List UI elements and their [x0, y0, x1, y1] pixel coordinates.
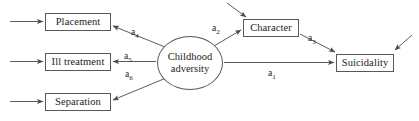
node-ill-treatment-label: Ill treatment — [52, 56, 105, 67]
node-childhood-adversity[interactable]: Childhood adversity — [157, 36, 223, 90]
edge-label-a5: a5 — [124, 52, 132, 62]
edge-label-a1: a1 — [268, 69, 276, 79]
edge-label-a3-sub: 3 — [312, 38, 316, 46]
node-childhood-adversity-label-line2: adversity — [171, 63, 210, 75]
edge-label-a6-sub: 6 — [129, 74, 133, 82]
edge-label-a2-sub: 2 — [216, 28, 220, 36]
arrow-into-character — [227, 3, 246, 17]
arrow-into-suicidality — [395, 35, 412, 50]
node-ill-treatment[interactable]: Ill treatment — [45, 53, 111, 71]
node-character-label: Character — [250, 22, 292, 33]
edge-label-a6: a6 — [125, 70, 133, 80]
node-character[interactable]: Character — [243, 19, 299, 37]
edge-a4 — [113, 26, 165, 47]
node-placement-label: Placement — [56, 16, 101, 27]
edge-label-a5-sub: 5 — [128, 56, 132, 64]
edge-a6 — [113, 78, 166, 100]
edge-label-a1-sub: 1 — [272, 73, 276, 81]
edge-label-a4-sub: 4 — [135, 32, 139, 40]
path-diagram: Placement Ill treatment Separation Child… — [0, 0, 419, 121]
node-placement[interactable]: Placement — [45, 13, 111, 31]
node-suicidality-label: Suicidality — [342, 57, 389, 68]
node-separation-label: Separation — [55, 96, 101, 107]
edge-a3 — [300, 34, 335, 52]
node-suicidality[interactable]: Suicidality — [336, 54, 394, 72]
node-childhood-adversity-label-line1: Childhood — [168, 51, 212, 63]
edge-label-a4: a4 — [131, 28, 139, 38]
edge-label-a3: a3 — [308, 34, 316, 44]
node-separation[interactable]: Separation — [45, 93, 111, 111]
edge-label-a2: a2 — [212, 24, 220, 34]
